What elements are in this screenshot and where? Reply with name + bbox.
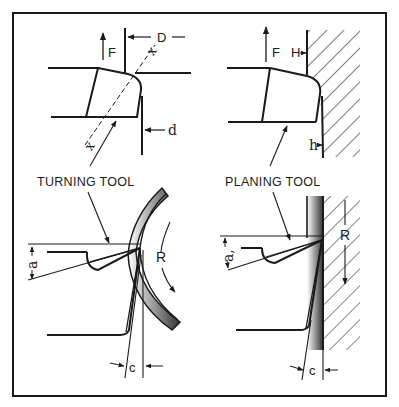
travel-label-R: R xyxy=(340,227,350,243)
caption-planing-tool: PLANING TOOL xyxy=(225,175,321,189)
caption-turning-tool: TURNING TOOL xyxy=(37,175,135,189)
depth-label-d: d xyxy=(168,122,177,138)
height-label-H: H xyxy=(291,45,300,60)
rake-angle-label-a: a xyxy=(24,261,40,269)
clearance-label-c-planing: c xyxy=(309,363,316,378)
planing-side-view: R a, c xyxy=(220,192,360,380)
svg-text:x: x xyxy=(81,138,98,153)
feed-label-planing: F xyxy=(272,45,280,60)
planing-top-view: F H h xyxy=(227,27,360,166)
svg-text:x: x xyxy=(143,43,160,58)
rake-angle-label-a1: a, xyxy=(220,249,236,262)
turning-side-view: R a c xyxy=(24,188,180,378)
feed-label-turning: F xyxy=(108,45,116,60)
height-label-h: h xyxy=(309,137,318,153)
rotation-label-R: R xyxy=(156,249,166,265)
clearance-label-c-turning: c xyxy=(129,360,136,375)
depth-label-D: D xyxy=(157,30,166,45)
tool-geometry-diagram: x x F D d TURNING TOOL F H h xyxy=(0,0,399,407)
turning-top-view: x x F D d xyxy=(48,28,191,166)
